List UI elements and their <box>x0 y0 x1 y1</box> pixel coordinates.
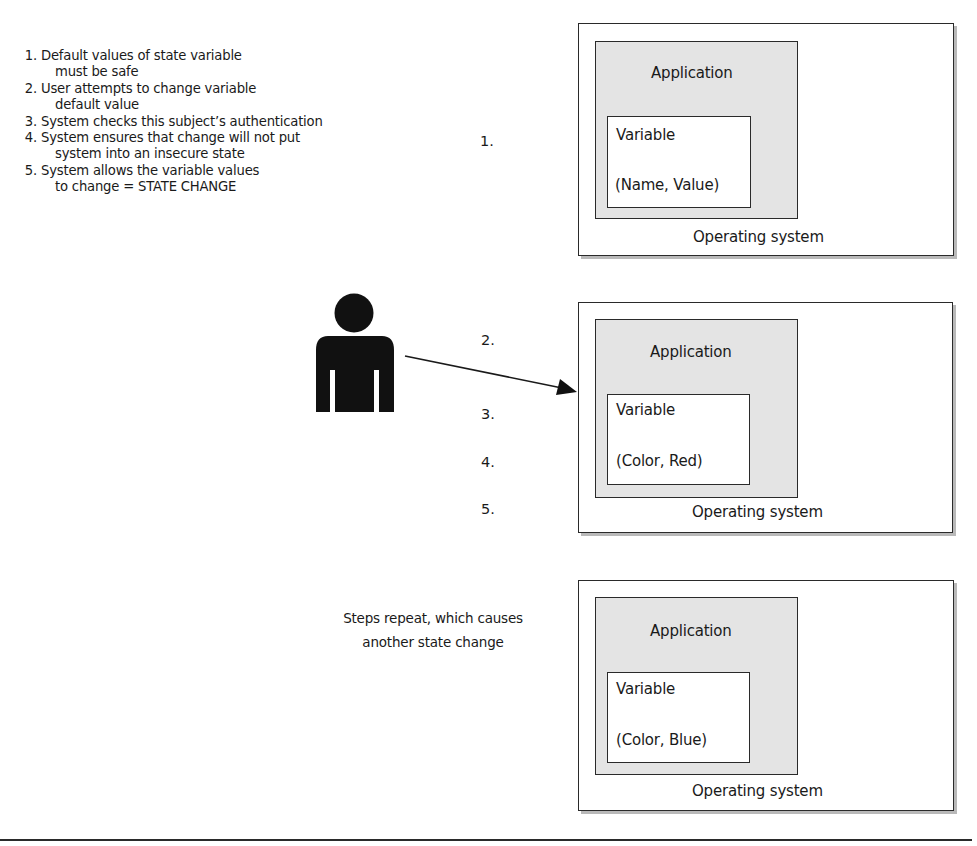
variable-value: (Color, Red) <box>616 452 703 470</box>
operating-system-label: Operating system <box>692 503 823 521</box>
variable-label: Variable <box>616 680 675 698</box>
step-text: System checks this subject’s authenticat… <box>41 114 399 130</box>
panel-2-step-label: 5. <box>481 501 495 518</box>
step-text: User attempts to change variable <box>41 81 399 97</box>
step-number: 3. <box>19 114 39 130</box>
repeat-caption-line: another state change <box>303 630 563 654</box>
variable-label: Variable <box>616 401 675 419</box>
step-text-cont: system into an insecure state <box>41 146 399 162</box>
application-label: Application <box>651 64 733 82</box>
step-item: 1. Default values of state variable must… <box>19 48 399 81</box>
divider-rule <box>0 839 972 841</box>
panel-2-step-label: 2. <box>481 332 495 349</box>
step-number: 2. <box>19 81 39 97</box>
step-text-cont: default value <box>41 97 399 113</box>
step-number: 5. <box>19 163 39 179</box>
step-text: System ensures that change will not put <box>41 130 399 146</box>
step-item: 2. User attempts to change variable defa… <box>19 81 399 114</box>
repeat-caption: Steps repeat, which causes another state… <box>303 606 563 654</box>
panel-2-step-label: 3. <box>481 406 495 423</box>
variable-value: (Color, Blue) <box>616 731 707 749</box>
application-label: Application <box>650 622 732 640</box>
step-number: 4. <box>19 130 39 146</box>
arrow-right-icon <box>400 348 582 400</box>
person-silhouette-icon <box>310 288 402 418</box>
panel-2-step-label: 4. <box>481 454 495 471</box>
repeat-caption-line: Steps repeat, which causes <box>303 606 563 630</box>
step-item: 5. System allows the variable values to … <box>19 163 399 196</box>
variable-value: (Name, Value) <box>615 176 719 194</box>
step-list: 1. Default values of state variable must… <box>19 48 399 196</box>
step-item: 3. System checks this subject’s authenti… <box>19 114 399 130</box>
step-number: 1. <box>19 48 39 64</box>
application-label: Application <box>650 343 732 361</box>
step-item: 4. System ensures that change will not p… <box>19 130 399 163</box>
step-text-cont: to change = STATE CHANGE <box>41 179 399 195</box>
step-text-cont: must be safe <box>41 64 399 80</box>
panel-1-step-label: 1. <box>480 133 494 150</box>
variable-label: Variable <box>616 126 675 144</box>
operating-system-label: Operating system <box>693 228 824 246</box>
operating-system-label: Operating system <box>692 782 823 800</box>
step-text: Default values of state variable <box>41 48 399 64</box>
step-text: System allows the variable values <box>41 163 399 179</box>
